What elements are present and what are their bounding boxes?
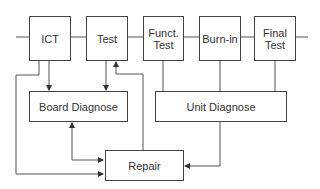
unit-diagnose-box: Unit Diagnose: [155, 91, 287, 122]
stage-label: ICT: [41, 33, 59, 45]
stage-test: Test: [86, 16, 128, 61]
stage-ict: ICT: [29, 16, 71, 61]
stage-label: Final Test: [263, 27, 287, 51]
stage-funct-test: Funct. Test: [143, 16, 184, 61]
unit-diagnose-label: Unit Diagnose: [186, 101, 255, 113]
unit-to-repair-arrow: [185, 121, 220, 166]
stage-label: Burn-in: [202, 33, 237, 45]
stage-burn-in: Burn-in: [199, 16, 241, 61]
board-diagnose-label: Board Diagnose: [39, 101, 118, 113]
repair-box: Repair: [105, 150, 184, 181]
board-diagnose-box: Board Diagnose: [29, 91, 128, 122]
stage-final-test: Final Test: [254, 16, 296, 61]
stage-label: Funct. Test: [148, 27, 179, 51]
stage-label: Test: [97, 33, 117, 45]
repair-label: Repair: [128, 160, 160, 172]
